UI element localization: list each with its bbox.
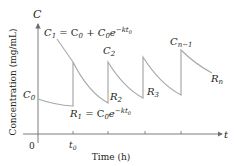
concentration-curve [38,50,212,106]
y-axis-symbol: C [33,8,42,21]
c0-label: C0 [23,89,36,102]
r3-label: R3 [146,86,160,99]
c1-formula: C1 = C0 + C0e−kt0 [44,26,133,40]
x-axis-label: Time (h) [92,152,130,162]
c2-label: C2 [103,45,116,58]
cn-1-label: Cn−1 [170,36,192,49]
concentration-chart: C t 0 Time (h) Concentration (mg/mL) C1 … [0,0,234,166]
r2-label: R2 [109,91,123,104]
origin-label: 0 [29,141,35,151]
x-axis-symbol: t [224,129,229,140]
rn-label: Rn [210,73,224,86]
r1-formula: R1 = C0e−kt0 [69,107,132,121]
c1-leader-line [57,39,73,62]
t0-tick-label: t0 [69,140,77,151]
y-axis-label: Concentration (mg/mL) [8,29,18,136]
